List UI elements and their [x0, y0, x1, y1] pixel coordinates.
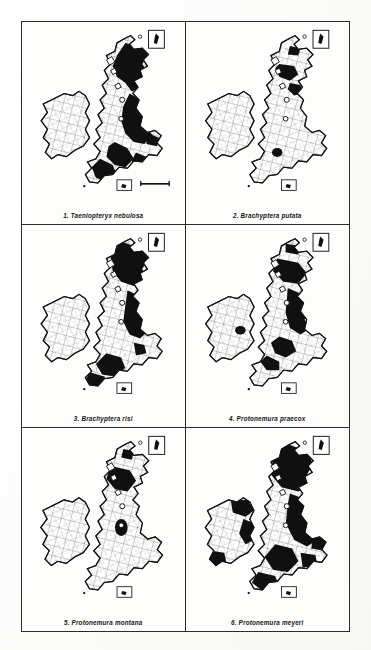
shaded-vice-counties-ireland-4 [235, 326, 246, 334]
shetland-inset-box-2 [313, 30, 329, 48]
distribution-map-5 [22, 430, 185, 610]
great-britain-landmass-6 [241, 435, 347, 604]
map-area-6 [186, 430, 350, 610]
great-britain-landmass-3 [77, 232, 182, 400]
distribution-map-3 [22, 227, 185, 406]
map-area-4 [186, 227, 350, 406]
map-area-3 [22, 227, 185, 406]
panel-caption-2: 2. Brachyptera putata [186, 212, 350, 219]
great-britain-landmass-4 [241, 232, 346, 400]
great-britain-landmass-5 [77, 435, 183, 604]
shetland-inset-box-5 [149, 436, 165, 454]
channel-islands-inset-box-2 [281, 180, 296, 191]
map-panel-2[interactable]: 2. Brachyptera putata [186, 22, 350, 225]
distribution-map-2 [186, 24, 350, 203]
figure-plate: 1. Taeniopteryx nebulosa [21, 21, 350, 632]
map-area-2 [186, 24, 350, 203]
shetland-inset-box-4 [313, 233, 329, 251]
distribution-map-1 [22, 24, 185, 203]
scanned-page: 1. Taeniopteryx nebulosa [0, 0, 371, 650]
panel-caption-1: 1. Taeniopteryx nebulosa [22, 212, 185, 219]
map-area-1 [22, 24, 185, 203]
distribution-map-4 [186, 227, 350, 406]
channel-islands-inset-box-3 [117, 383, 132, 394]
shetland-inset-box-3 [149, 233, 165, 251]
map-panel-4[interactable]: 4. Protonemura praecox [186, 225, 350, 428]
panel-caption-3: 3. Brachyptera risi [22, 415, 185, 422]
panel-grid: 1. Taeniopteryx nebulosa [22, 22, 349, 631]
great-britain-landmass-2 [241, 29, 346, 197]
map-area-5 [22, 430, 185, 610]
scale-bar-1 [140, 181, 170, 186]
channel-islands-inset-box-1 [117, 180, 132, 191]
great-britain-landmass-1 [77, 29, 182, 197]
map-panel-5[interactable]: 5. Protonemura montana [22, 428, 186, 631]
shetland-inset-box-1 [149, 30, 165, 48]
map-panel-3[interactable]: 3. Brachyptera risi [22, 225, 186, 428]
channel-islands-inset-box-5 [117, 587, 132, 598]
panel-caption-6: 6. Protonemura meyeri [186, 619, 350, 626]
panel-caption-4: 4. Protonemura praecox [186, 415, 350, 422]
channel-islands-inset-box-4 [281, 383, 296, 394]
panel-caption-5: 5. Protonemura montana [22, 619, 185, 626]
shetland-inset-box-6 [313, 436, 329, 454]
distribution-map-6 [186, 430, 350, 610]
map-panel-1[interactable]: 1. Taeniopteryx nebulosa [22, 22, 186, 225]
channel-islands-inset-box-6 [281, 587, 296, 598]
map-panel-6[interactable]: 6. Protonemura meyeri [186, 428, 350, 631]
